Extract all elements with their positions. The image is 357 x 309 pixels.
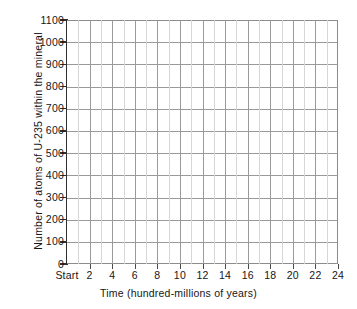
y-tick-label: 300 — [4, 192, 64, 203]
gridline-vertical-minor — [282, 20, 283, 264]
gridline-vertical — [315, 20, 316, 264]
plot-area — [67, 20, 338, 264]
y-axis-title: Number of atoms of U-235 within the mine… — [32, 16, 44, 266]
x-axis-title: Time (hundred-millions of years) — [0, 287, 357, 299]
y-tick-label: 400 — [4, 170, 64, 181]
gridline-vertical — [157, 20, 158, 264]
gridline-vertical-minor — [214, 20, 215, 264]
y-tick-label: 900 — [4, 59, 64, 70]
gridline-vertical-minor — [146, 20, 147, 264]
gridline-vertical — [203, 20, 204, 264]
gridline-vertical-minor — [327, 20, 328, 264]
gridline-vertical-minor — [78, 20, 79, 264]
gridline-vertical — [225, 20, 226, 264]
gridline-vertical-minor — [236, 20, 237, 264]
gridline-vertical — [293, 20, 294, 264]
y-tick-label: 700 — [4, 103, 64, 114]
y-tick-label: 100 — [4, 236, 64, 247]
gridline-vertical — [135, 20, 136, 264]
chart-figure: Number of atoms of U-235 within the mine… — [0, 0, 357, 309]
plot-frame-right — [337, 20, 338, 264]
gridline-vertical — [248, 20, 249, 264]
gridline-vertical-minor — [124, 20, 125, 264]
gridline-vertical — [270, 20, 271, 264]
gridline-vertical — [180, 20, 181, 264]
y-tick-label: 200 — [4, 214, 64, 225]
y-tick-label: 600 — [4, 125, 64, 136]
y-tick-label: 1100 — [4, 15, 64, 26]
y-tick-label: 800 — [4, 81, 64, 92]
gridline-vertical-minor — [191, 20, 192, 264]
gridline-vertical-minor — [101, 20, 102, 264]
gridline-vertical-minor — [304, 20, 305, 264]
y-tick-label: 1000 — [4, 37, 64, 48]
gridline-vertical — [112, 20, 113, 264]
x-tick-label: 24 — [308, 270, 357, 281]
y-tick-label: 500 — [4, 148, 64, 159]
gridline-vertical-minor — [259, 20, 260, 264]
gridline-vertical — [90, 20, 91, 264]
gridline-vertical-minor — [169, 20, 170, 264]
y-tick-label: 0 — [4, 259, 64, 270]
